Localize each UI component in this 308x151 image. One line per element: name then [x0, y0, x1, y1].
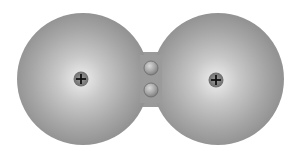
shared-electron-2 [144, 83, 158, 97]
covalent-bond-diagram [0, 0, 308, 151]
shared-electron-1 [144, 61, 158, 75]
right-nucleus [209, 73, 224, 88]
left-nucleus [74, 72, 89, 87]
